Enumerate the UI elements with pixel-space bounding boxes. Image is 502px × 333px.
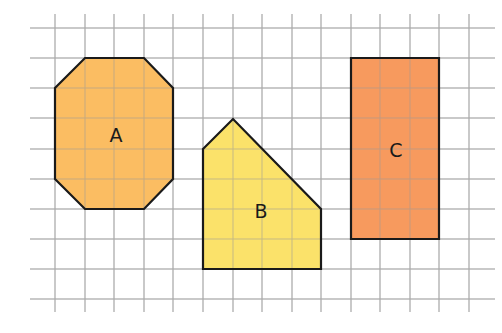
- shape-label-c: C: [389, 141, 402, 160]
- shape-label-a: A: [110, 126, 123, 145]
- shape-label-b: B: [254, 202, 267, 221]
- shapes: [30, 14, 495, 312]
- grid-diagram: [0, 0, 502, 333]
